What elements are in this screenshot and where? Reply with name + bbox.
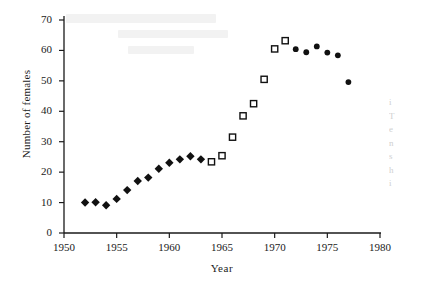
adjacent-column-line: e [389, 123, 423, 137]
data-point-square [219, 153, 225, 159]
y-tick-label: 50 [26, 74, 52, 86]
data-point-diamond [134, 177, 142, 185]
data-point-diamond [186, 152, 194, 160]
data-point-diamond [102, 201, 110, 209]
data-point-square [282, 38, 288, 44]
data-point-circle [335, 52, 341, 58]
data-point-diamond [81, 198, 89, 206]
data-point-square [208, 159, 214, 165]
x-tick-label: 1975 [307, 241, 347, 253]
page-showthrough-smudge [128, 46, 194, 54]
data-point-diamond [123, 186, 131, 194]
adjacent-column-line: i [389, 96, 423, 110]
y-tick-label: 10 [26, 196, 52, 208]
page-showthrough-smudge [66, 14, 216, 23]
data-point-circle [303, 49, 309, 55]
data-point-circle [293, 46, 299, 52]
y-tick-label: 60 [26, 43, 52, 55]
data-point-circle [324, 50, 330, 56]
data-point-diamond [91, 198, 99, 206]
x-axis-label: Year [64, 262, 380, 274]
y-tick-label: 0 [26, 226, 52, 238]
data-point-diamond [144, 173, 152, 181]
adjacent-column-text: i T e n s h i [389, 96, 423, 236]
data-point-square [229, 134, 235, 140]
data-point-diamond [176, 155, 184, 163]
data-point-square [251, 101, 257, 107]
adjacent-column-line: i [389, 177, 423, 191]
x-tick-label: 1970 [255, 241, 295, 253]
y-tick-label: 30 [26, 135, 52, 147]
data-point-diamond [112, 195, 120, 203]
scatter-plot-figure: Number of females Year i T e n s h i 010… [0, 0, 424, 290]
page-showthrough-smudge [118, 30, 228, 38]
adjacent-column-line: T [389, 110, 423, 124]
data-point-circle [346, 79, 352, 85]
x-tick-label: 1980 [360, 241, 400, 253]
data-point-circle [314, 44, 320, 50]
data-point-square [240, 113, 246, 119]
x-tick-label: 1955 [97, 241, 137, 253]
y-tick-label: 70 [26, 13, 52, 25]
y-tick-label: 20 [26, 165, 52, 177]
x-tick-label: 1960 [149, 241, 189, 253]
data-point-diamond [155, 165, 163, 173]
data-point-diamond [197, 155, 205, 163]
adjacent-column-line: s [389, 150, 423, 164]
y-tick-label: 40 [26, 104, 52, 116]
adjacent-column-line: n [389, 137, 423, 151]
x-tick-label: 1965 [202, 241, 242, 253]
data-point-diamond [165, 159, 173, 167]
data-point-square [272, 46, 278, 52]
x-tick-label: 1950 [44, 241, 84, 253]
adjacent-column-line: h [389, 164, 423, 178]
data-point-square [261, 76, 267, 82]
